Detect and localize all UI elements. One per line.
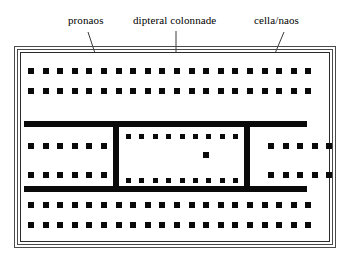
temple-plan-diagram: pronaos dipteral colonnade cella/naos: [0, 0, 347, 265]
peristyle-column-r2-c17: [276, 202, 282, 208]
peristyle-column-r3-c6: [116, 222, 122, 228]
peristyle-column-r0-c7: [130, 68, 136, 74]
peristyle-column-r1-c17: [276, 88, 282, 94]
peristyle-column-r1-c9: [159, 88, 165, 94]
peristyle-column-r2-c16: [262, 202, 268, 208]
peristyle-column-r2-c12: [203, 202, 209, 208]
peristyle-column-r0-c2: [57, 68, 63, 74]
cella-interior-column-r0-c8: [233, 134, 238, 139]
peristyle-column-r3-c5: [101, 222, 107, 228]
side-column-left-r0-c5: [101, 143, 107, 149]
peristyle-column-r3-c4: [86, 222, 92, 228]
cella-wall-bottom: [24, 186, 307, 192]
peristyle-column-r2-c11: [189, 202, 195, 208]
peristyle-column-r1-c5: [101, 88, 107, 94]
side-column-left-r0-c4: [86, 143, 92, 149]
peristyle-column-r2-c3: [72, 202, 78, 208]
cella-interior-column-r0-c3: [166, 134, 171, 139]
cella-interior-column-r0-c1: [139, 134, 144, 139]
peristyle-column-r1-c11: [189, 88, 195, 94]
peristyle-column-r1-c16: [262, 88, 268, 94]
peristyle-column-r1-c13: [218, 88, 224, 94]
side-column-right-r0-c3: [312, 143, 318, 149]
peristyle-column-r3-c3: [72, 222, 78, 228]
cella-interior-column-r0-c7: [220, 134, 225, 139]
peristyle-column-r0-c17: [276, 68, 282, 74]
peristyle-column-r2-c19: [305, 202, 311, 208]
side-column-right-r0-c0: [268, 143, 274, 149]
cella-interior-column-r1-c6: [206, 178, 211, 183]
side-column-left-r0-c3: [72, 143, 78, 149]
peristyle-column-r2-c6: [116, 202, 122, 208]
side-column-right-r0-c4: [326, 143, 332, 149]
peristyle-column-r0-c5: [101, 68, 107, 74]
peristyle-column-r0-c0: [28, 68, 34, 74]
cella-interior-column-r1-c8: [233, 178, 238, 183]
peristyle-column-r0-c1: [43, 68, 49, 74]
peristyle-column-r3-c8: [145, 222, 151, 228]
cella-interior-column-r1-c4: [180, 178, 185, 183]
cella-interior-column-r1-c2: [153, 178, 158, 183]
peristyle-column-r1-c8: [145, 88, 151, 94]
peristyle-column-r1-c19: [305, 88, 311, 94]
cella-interior-column-r0-c2: [153, 134, 158, 139]
peristyle-column-r3-c14: [232, 222, 238, 228]
peristyle-column-r3-c0: [28, 222, 34, 228]
peristyle-column-r1-c15: [247, 88, 253, 94]
peristyle-column-r2-c7: [130, 202, 136, 208]
peristyle-column-r0-c10: [174, 68, 180, 74]
peristyle-column-r0-c13: [218, 68, 224, 74]
peristyle-column-r1-c7: [130, 88, 136, 94]
peristyle-column-r1-c14: [232, 88, 238, 94]
peristyle-column-r0-c19: [305, 68, 311, 74]
peristyle-column-r3-c15: [247, 222, 253, 228]
side-column-left-r1-c2: [57, 172, 63, 178]
peristyle-column-r1-c0: [28, 88, 34, 94]
peristyle-column-r1-c10: [174, 88, 180, 94]
peristyle-column-r3-c18: [291, 222, 297, 228]
side-column-right-r0-c1: [283, 143, 289, 149]
peristyle-column-r0-c6: [116, 68, 122, 74]
side-column-left-r0-c0: [28, 143, 34, 149]
side-column-right-r1-c4: [326, 172, 332, 178]
cella-interior-column-r1-c3: [166, 178, 171, 183]
cella-interior-column-r1-c0: [126, 178, 131, 183]
peristyle-column-r1-c4: [86, 88, 92, 94]
peristyle-column-r0-c3: [72, 68, 78, 74]
side-column-left-r1-c5: [101, 172, 107, 178]
peristyle-column-r0-c18: [291, 68, 297, 74]
peristyle-column-r3-c16: [262, 222, 268, 228]
cella-wall-top: [24, 121, 307, 127]
peristyle-column-r3-c17: [276, 222, 282, 228]
cella-wall-right: [244, 121, 250, 192]
peristyle-column-r2-c8: [145, 202, 151, 208]
peristyle-column-r2-c5: [101, 202, 107, 208]
peristyle-column-r0-c14: [232, 68, 238, 74]
cella-interior-column-r0-c5: [193, 134, 198, 139]
peristyle-column-r2-c2: [57, 202, 63, 208]
peristyle-column-r3-c2: [57, 222, 63, 228]
peristyle-column-r2-c18: [291, 202, 297, 208]
cella-interior-column-r1-c5: [193, 178, 198, 183]
side-column-left-r1-c4: [86, 172, 92, 178]
side-column-right-r1-c3: [312, 172, 318, 178]
peristyle-column-r2-c1: [43, 202, 49, 208]
peristyle-column-r2-c4: [86, 202, 92, 208]
peristyle-column-r1-c18: [291, 88, 297, 94]
peristyle-column-r3-c1: [43, 222, 49, 228]
cella-interior-column-r0-c0: [126, 134, 131, 139]
side-column-left-r0-c2: [57, 143, 63, 149]
peristyle-column-r1-c6: [116, 88, 122, 94]
peristyle-column-r1-c2: [57, 88, 63, 94]
cella-interior-column-r1-c7: [220, 178, 225, 183]
peristyle-column-r1-c1: [43, 88, 49, 94]
peristyle-column-r0-c4: [86, 68, 92, 74]
peristyle-column-r3-c9: [159, 222, 165, 228]
side-column-right-r0-c2: [297, 143, 303, 149]
peristyle-column-r3-c12: [203, 222, 209, 228]
peristyle-column-r2-c14: [232, 202, 238, 208]
peristyle-column-r0-c12: [203, 68, 209, 74]
cult-statue-marker: [203, 152, 209, 158]
peristyle-column-r2-c13: [218, 202, 224, 208]
peristyle-column-r2-c9: [159, 202, 165, 208]
